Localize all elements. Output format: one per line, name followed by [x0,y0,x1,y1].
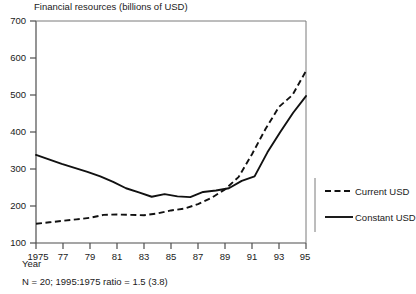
x-tick-label-95: 95 [300,251,311,262]
y-tick-label-300: 300 [4,163,26,174]
legend-label-current-usd: Current USD [355,186,409,197]
x-tick-label-89: 89 [220,251,231,262]
x-tick-label-87: 87 [193,251,204,262]
x-tick-label-83: 83 [139,251,150,262]
y-tick-label-700: 700 [4,15,26,26]
x-tick-label-77: 77 [58,251,69,262]
x-tick-label-79: 79 [85,251,96,262]
legend-label-constant-usd: Constant USD [355,212,416,223]
x-tick-label-93: 93 [274,251,285,262]
x-tick-label-85: 85 [166,251,177,262]
y-tick-label-200: 200 [4,200,26,211]
y-axis-title: Financial resources (billions of USD) [34,1,188,12]
x-tick-label-81: 81 [112,251,123,262]
y-tick-label-600: 600 [4,52,26,63]
y-tick-label-500: 500 [4,89,26,100]
line-current-usd [36,71,306,224]
y-tick-label-400: 400 [4,126,26,137]
x-axis-title: Year [22,258,41,269]
x-tick-marks [36,243,306,249]
y-tick-label-100: 100 [4,237,26,248]
x-tick-label-91: 91 [247,251,258,262]
y-tick-marks [30,21,36,243]
line-constant-usd [36,96,306,197]
chart-footnote: N = 20; 1995:1975 ratio = 1.5 (3.8) [22,276,168,287]
